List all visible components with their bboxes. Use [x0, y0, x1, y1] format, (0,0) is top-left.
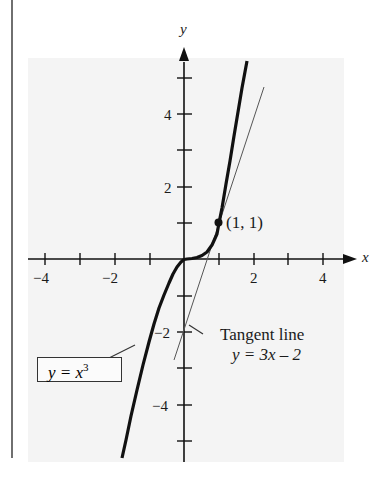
curve-equation-callout: y = x3 [37, 357, 122, 382]
tangent-point [215, 219, 223, 227]
point-label: (1, 1) [226, 214, 263, 231]
x-tick-label: −2 [102, 271, 118, 286]
x-tick-label: 2 [250, 271, 258, 286]
x-tick-label: −4 [33, 271, 49, 286]
tangent-annotation-equation: y = 3x – 2 [232, 346, 301, 363]
y-tick-label: −4 [152, 399, 168, 414]
x-tick-label: 4 [319, 271, 327, 286]
y-axis-label: y [180, 22, 187, 37]
y-tick-label: 2 [164, 181, 172, 196]
x-axis-arrow-icon [343, 254, 357, 264]
y-tick-label: 4 [164, 108, 172, 123]
curve-equation-base: y = x [48, 363, 83, 382]
figure: y x −4 −2 2 4 4 2 −2 −4 (1, 1) Tangent l… [0, 0, 381, 486]
y-axis-arrow-icon [179, 47, 189, 61]
y-tick-label: −2 [154, 326, 170, 341]
curve-equation-exponent: 3 [83, 361, 89, 373]
plot-svg [0, 0, 381, 486]
tangent-annotation-title: Tangent line [220, 326, 304, 343]
x-axis-label: x [362, 250, 369, 265]
